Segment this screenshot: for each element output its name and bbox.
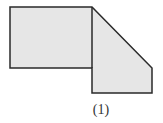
composite-shape-diagram (0, 0, 163, 123)
composite-polygon (10, 7, 152, 93)
figure-label: (1) (84, 102, 118, 118)
